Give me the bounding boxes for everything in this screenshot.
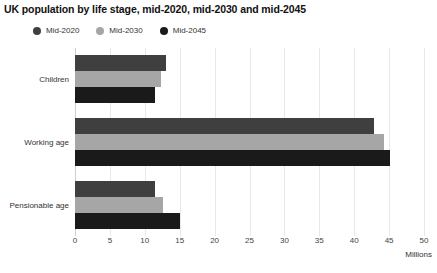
x-tick-label: 30 [280,236,289,245]
bar-groups [75,48,424,236]
x-tick-label: 0 [73,236,77,245]
legend-swatch-circle-icon [160,27,168,35]
bar[interactable] [75,118,374,134]
x-tick-label: 5 [108,236,112,245]
legend-swatch-circle-icon [33,27,41,35]
bar[interactable] [75,134,384,150]
x-tick-label: 15 [175,236,184,245]
legend-item-label: Mid-2045 [173,26,206,35]
legend-item[interactable]: Mid-2045 [160,26,206,35]
chart-legend: Mid-2020Mid-2030Mid-2045 [33,26,206,35]
bar[interactable] [75,181,155,197]
legend-swatch-circle-icon [96,27,104,35]
category-label: Pensionable age [9,200,69,209]
chart-title: UK population by life stage, mid-2020, m… [4,3,306,15]
x-tick-label: 25 [245,236,254,245]
chart-container: UK population by life stage, mid-2020, m… [0,0,437,273]
x-tick-label: 50 [420,236,429,245]
x-tick-label: 45 [385,236,394,245]
plot-area [75,48,424,236]
bar[interactable] [75,71,161,87]
bar-group [75,181,424,229]
legend-item[interactable]: Mid-2030 [96,26,142,35]
bar-group [75,55,424,103]
bar[interactable] [75,150,390,166]
category-label: Working age [24,138,69,147]
x-axis-title: Millions [0,250,432,259]
x-tick-label: 20 [210,236,219,245]
bar-group [75,118,424,166]
bar[interactable] [75,55,166,71]
gridline [424,48,425,236]
x-tick-label: 40 [350,236,359,245]
bar[interactable] [75,197,163,213]
category-label: Children [39,75,69,84]
bar[interactable] [75,213,180,229]
bar[interactable] [75,87,155,103]
x-tick-label: 10 [140,236,149,245]
legend-item[interactable]: Mid-2020 [33,26,79,35]
legend-item-label: Mid-2020 [46,26,79,35]
x-tick-label: 35 [315,236,324,245]
x-axis-tick-labels: 05101520253035404550 [75,236,424,250]
category-axis-labels: ChildrenWorking agePensionable age [0,48,69,236]
legend-item-label: Mid-2030 [109,26,142,35]
